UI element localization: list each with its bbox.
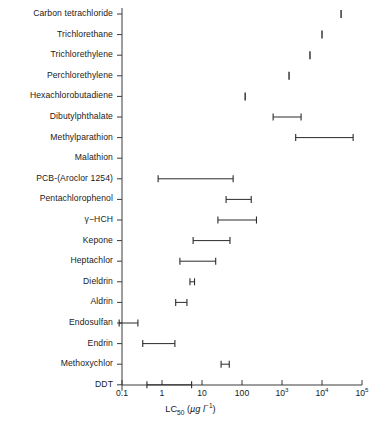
- tick-mantissa: 10: [315, 388, 325, 398]
- interval-bar: [273, 114, 301, 121]
- interval-bar: [176, 299, 187, 306]
- x-axis-tick-label: 1: [160, 388, 165, 398]
- x-axis-tick-label: 103: [275, 388, 288, 398]
- interval-bar: [221, 361, 229, 368]
- interval-bar: [296, 134, 353, 141]
- tick-mantissa: 10: [355, 388, 365, 398]
- tick-mantissa: 10: [275, 388, 285, 398]
- axis-title-base: LC: [165, 404, 177, 414]
- tick-exponent: 5: [365, 386, 368, 393]
- axis-title-paren-close: ): [213, 404, 216, 414]
- x-axis-tick-label: 105: [355, 388, 368, 398]
- interval-bar: [158, 175, 233, 182]
- interval-bar: [147, 381, 192, 388]
- plot-area: [0, 0, 381, 428]
- axis-title-unit: g l: [195, 404, 205, 414]
- x-axis-title: LC50 (µg l−1): [0, 404, 381, 414]
- x-axis-tick-label: 0.1: [116, 388, 128, 398]
- x-axis-tick-label: 100: [235, 388, 249, 398]
- tick-exponent: 3: [285, 386, 288, 393]
- interval-bar: [190, 278, 195, 285]
- lc50-range-chart: Carbon tetrachlorideTrichlorethaneTrichl…: [0, 0, 381, 428]
- axis-title-unit-exponent: −1: [205, 402, 213, 409]
- interval-bar: [226, 196, 251, 203]
- x-axis-tick-label: 10: [197, 388, 207, 398]
- interval-bar: [180, 258, 216, 265]
- interval-bar: [193, 237, 230, 244]
- interval-bar: [218, 217, 257, 224]
- tick-exponent: 4: [325, 386, 328, 393]
- x-axis-tick-label: 104: [315, 388, 328, 398]
- interval-bar: [143, 340, 175, 347]
